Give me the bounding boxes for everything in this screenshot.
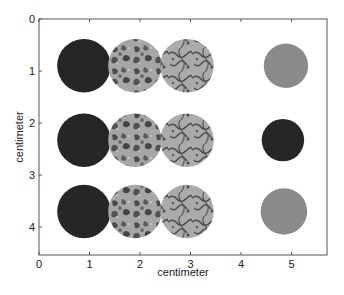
x-tick-label: 4 xyxy=(238,258,244,270)
x-tick-label: 0 xyxy=(36,258,42,270)
spot-r3-c3 xyxy=(160,185,214,239)
y-tick-label: 4 xyxy=(29,221,35,233)
spot-r1-c3 xyxy=(160,39,214,93)
chart-figure: 012345 01234 centimeter centimeter xyxy=(0,0,344,295)
spot-r2-c3 xyxy=(160,113,214,167)
y-tick-label: 0 xyxy=(29,13,35,25)
y-tick-label: 3 xyxy=(29,169,35,181)
x-tick-label: 2 xyxy=(137,258,143,270)
y-axis-label: centimeter xyxy=(13,111,25,163)
spot-r1-c1 xyxy=(57,39,111,93)
chart-canvas: 012345 01234 centimeter centimeter xyxy=(0,0,344,295)
x-tick-label: 5 xyxy=(288,258,294,270)
spot-r2-c1 xyxy=(57,113,111,167)
y-tick-label: 1 xyxy=(29,65,35,77)
spot-r3-c1 xyxy=(57,185,111,239)
x-axis-label: centimeter xyxy=(157,266,209,278)
spot-r2-c4 xyxy=(262,119,304,161)
spot-r1-c2 xyxy=(108,39,162,93)
y-tick-label: 2 xyxy=(29,117,35,129)
spot-r2-c2 xyxy=(108,113,162,167)
sample-spots xyxy=(57,39,308,238)
spot-r1-c4 xyxy=(264,44,308,88)
spot-r3-c2 xyxy=(108,185,162,239)
x-tick-label: 1 xyxy=(86,258,92,270)
spot-r3-c4 xyxy=(261,188,307,234)
